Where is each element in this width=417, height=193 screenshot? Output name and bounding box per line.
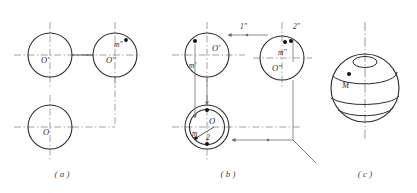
figure-container: O′ O″ O m″ ( a )	[0, 0, 417, 193]
panel-b-top-left-point-marker	[193, 39, 197, 43]
panel-a-point-marker	[124, 38, 128, 42]
panel-a-top-left-label: O′	[41, 55, 49, 65]
panel-c: M ( c )	[331, 22, 399, 179]
panel-c-point-label: M	[341, 80, 350, 90]
panel-a-point-label: m″	[114, 40, 123, 49]
panel-b-bottom-label: O	[209, 116, 215, 126]
panel-b-ray-one-tick	[246, 34, 249, 37]
panel-b-bottom-index-label: 2	[206, 133, 210, 142]
panel-b-top-right-point-marker-two	[289, 39, 293, 43]
projection-diagram: O′ O″ O m″ ( a )	[0, 0, 417, 193]
panel-b-transfer-tick	[267, 139, 270, 142]
panel-b: O′ m′ O″ m″ O m 2 1″ 2″ ( b )	[172, 22, 316, 179]
panel-b-bottom-point-marker-bottom	[205, 142, 209, 146]
panel-b-bottom-point-marker-top	[205, 108, 209, 112]
panel-b-ray-two-label: 2″	[293, 22, 301, 31]
panel-a-caption: ( a )	[55, 169, 70, 179]
panel-b-mitre-line	[293, 140, 316, 163]
panel-b-bottom-point-label: m	[192, 129, 198, 138]
panel-a: O′ O″ O m″ ( a )	[14, 22, 140, 179]
panel-b-top-left-point-label: m′	[189, 61, 196, 70]
panel-b-ray-one-label: 1″	[240, 22, 248, 31]
panel-b-top-left-label: O′	[212, 43, 220, 53]
panel-b-caption: ( b )	[221, 169, 236, 179]
panel-c-latitude-lower	[338, 108, 393, 116]
panel-b-top-right-label: O″	[272, 63, 282, 73]
panel-b-top-right-point-marker-one	[283, 40, 287, 44]
panel-c-point-marker	[347, 72, 351, 76]
panel-b-top-right-point-label: m″	[278, 48, 287, 57]
panel-c-caption: ( c )	[358, 169, 373, 179]
panel-b-bottom-chord	[196, 127, 214, 138]
panel-a-bottom-label: O	[43, 127, 49, 137]
panel-a-top-right-label: O″	[106, 55, 116, 65]
